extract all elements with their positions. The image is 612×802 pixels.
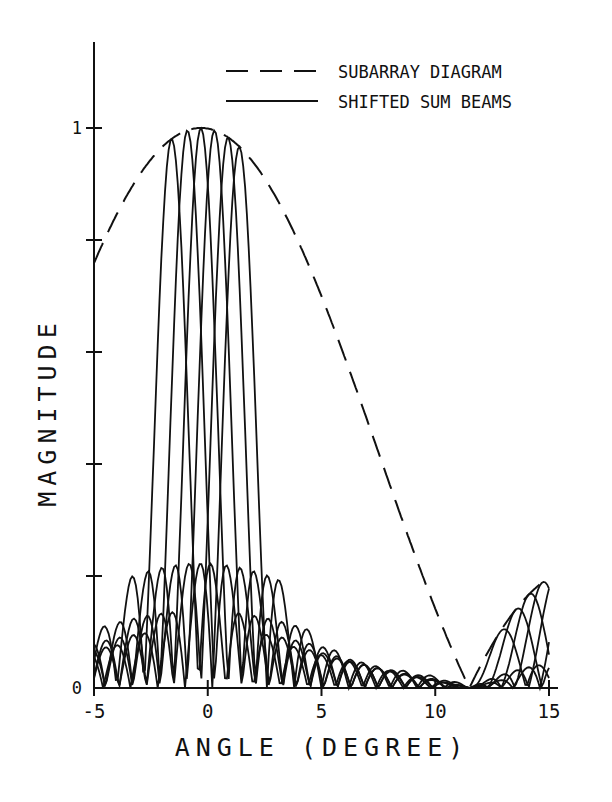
y-axis-label: MAGNITUDE [33,317,62,506]
legend-label-sum-beams: SHIFTED SUM BEAMS [338,92,512,112]
x-axis-label: ANGLE (DEGREE) [175,733,470,762]
x-tick-label: 10 [424,700,447,722]
y-tick-label: 1 [72,118,82,138]
y-ticks: 01 [72,118,102,698]
sum-beam-curve [94,131,549,688]
x-tick-label: 5 [316,700,327,722]
sum-beam-curve [94,128,549,688]
x-tick-label: 0 [202,700,213,722]
y-tick-label: 0 [72,678,82,698]
legend-label-subarray: SUBARRAY DIAGRAM [338,62,502,82]
x-tick-label: -5 [83,700,106,722]
x-tick-label: 15 [538,700,561,722]
shifted-sum-beams [94,128,549,688]
sum-beam-curve [94,138,549,688]
subarray-diagram-curve [94,128,549,688]
chart: 01 -5051015 SUBARRAY DIAGRAM SHIFTED SUM… [0,0,612,802]
sum-beam-curve [94,131,549,688]
sum-beam-curve [94,139,549,688]
legend: SUBARRAY DIAGRAM SHIFTED SUM BEAMS [226,62,512,112]
